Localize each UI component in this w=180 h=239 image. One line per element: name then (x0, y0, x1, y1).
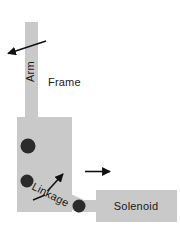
linkage-pivot-icon (73, 200, 86, 213)
arm-label: Arm (24, 61, 36, 82)
arm-pivot-lower-icon (21, 175, 34, 188)
diagram-canvas: Arm Frame Linkage Solenoid (0, 0, 180, 239)
mechanism-diagram: Arm Frame Linkage Solenoid (0, 0, 180, 239)
solenoid-label: Solenoid (114, 200, 158, 212)
frame-label: Frame (48, 76, 81, 88)
arm-pivot-upper-icon (21, 139, 36, 154)
